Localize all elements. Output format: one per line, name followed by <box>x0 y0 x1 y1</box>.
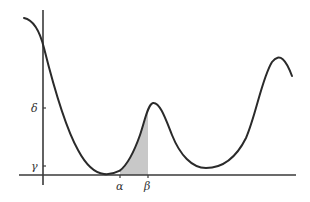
label-gamma: γ <box>31 160 38 173</box>
function-graph: δ γ α β <box>0 0 310 202</box>
label-alpha: α <box>116 180 124 193</box>
label-beta: β <box>143 180 150 193</box>
label-delta: δ <box>31 102 38 115</box>
function-curve <box>24 18 292 174</box>
